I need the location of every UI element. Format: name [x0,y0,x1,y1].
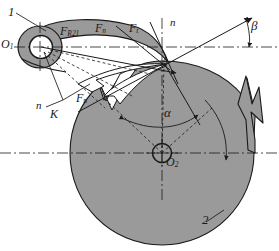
diagram-canvas: 1 O1 FR21 Fn Ft A n β α n K Fn O2 2 [0,0,279,251]
label-force-FR21: FR21 [60,25,79,38]
label-normal-upper: n [170,17,176,28]
label-angle-beta: β [251,19,257,32]
label-pivot-o1: O1 [1,38,13,51]
label-part-1: 1 [8,5,15,18]
label-part-2: 2 [202,213,209,226]
dashed-o1-to-contact [50,50,150,74]
label-force-Fn-upper: Fn [95,22,106,35]
diagram-svg [0,0,279,251]
angle-beta-arc [247,22,250,47]
label-force-Ft: Ft [129,22,138,35]
label-force-Fn-lower: Fn [76,92,87,105]
label-disc-center-o2: O2 [166,156,178,169]
label-contact-point-a: A [162,56,168,66]
label-angle-alpha: α [164,106,171,119]
label-normal-lower: n [36,100,42,111]
label-contact-k: K [50,108,58,120]
leader-n-lower [46,100,63,107]
